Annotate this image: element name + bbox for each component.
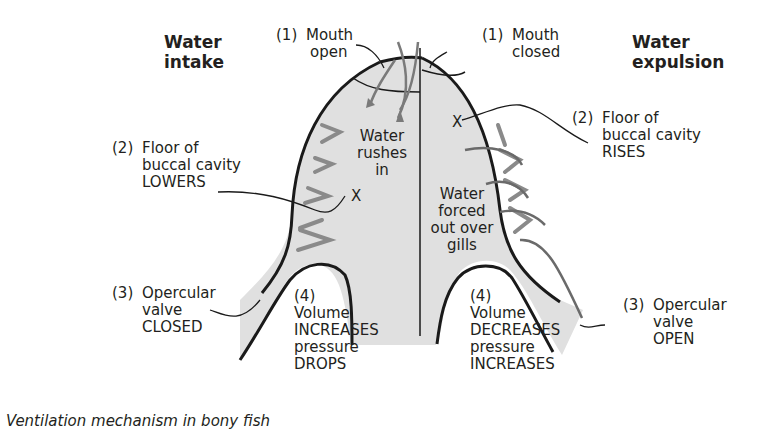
label-line: Floor of	[142, 140, 241, 157]
inner-text-water-forced-out: Water forced out over gills	[422, 186, 502, 254]
label-line: OPEN	[653, 331, 727, 348]
label-line: Mouth	[306, 27, 353, 44]
inner-line: rushes	[352, 145, 412, 162]
label-mouth-closed: (1)Mouthclosed	[482, 27, 560, 61]
label-mouth-open: (1)Mouthopen	[276, 27, 353, 61]
label-line: CLOSED	[142, 319, 216, 336]
heading-water-expulsion: Water expulsion	[632, 32, 724, 72]
label-line: buccal cavity	[142, 157, 241, 174]
label-line: open	[306, 44, 353, 61]
inner-line: in	[352, 162, 412, 179]
heading-line: intake	[164, 52, 224, 72]
label-line: Volume	[470, 305, 560, 322]
heading-line: expulsion	[632, 52, 724, 72]
label-volume-increases: (4) Volume INCREASES pressure DROPS	[294, 288, 379, 373]
marker-x-intake: X	[351, 188, 361, 205]
step-number: (1)	[482, 27, 512, 44]
step-number: (2)	[112, 140, 142, 157]
label-floor-rises: (2)Floor ofbuccal cavityRISES	[572, 110, 701, 161]
label-line: LOWERS	[142, 174, 241, 191]
inner-line: forced	[422, 203, 502, 220]
label-valve-closed: (3)OpercularvalveCLOSED	[112, 285, 216, 336]
label-line: RISES	[602, 144, 701, 161]
inner-line: Water	[352, 128, 412, 145]
figure-caption: Ventilation mechanism in bony fish	[6, 412, 270, 430]
gills-right	[498, 125, 530, 232]
heading-line: Water	[164, 32, 224, 52]
label-line: buccal cavity	[602, 127, 701, 144]
label-line: valve	[142, 302, 216, 319]
label-valve-open: (3)OpercularvalveOPEN	[623, 297, 727, 348]
inner-line: gills	[422, 237, 502, 254]
label-line: Opercular	[142, 285, 216, 302]
marker-x-expulsion: X	[452, 114, 462, 131]
heading-line: Water	[632, 32, 724, 52]
label-line: Volume	[294, 305, 379, 322]
step-number: (4)	[294, 288, 379, 305]
label-line: Floor of	[602, 110, 701, 127]
label-floor-lowers: (2)Floor ofbuccal cavityLOWERS	[112, 140, 241, 191]
step-number: (3)	[623, 297, 653, 314]
inner-text-water-rushes-in: Water rushes in	[352, 128, 412, 179]
label-line: INCREASES	[470, 356, 560, 373]
step-number: (4)	[470, 288, 560, 305]
label-line: INCREASES	[294, 322, 379, 339]
step-number: (1)	[276, 27, 306, 44]
label-line: closed	[512, 44, 560, 61]
step-number: (2)	[572, 110, 602, 127]
label-line: pressure	[294, 339, 379, 356]
label-line: pressure	[470, 339, 560, 356]
heading-water-intake: Water intake	[164, 32, 224, 72]
inner-line: out over	[422, 220, 502, 237]
label-line: DROPS	[294, 356, 379, 373]
inner-line: Water	[422, 186, 502, 203]
label-volume-decreases: (4) Volume DECREASES pressure INCREASES	[470, 288, 560, 373]
step-number: (3)	[112, 285, 142, 302]
label-line: Opercular	[653, 297, 727, 314]
label-line: Mouth	[512, 27, 560, 44]
label-line: valve	[653, 314, 727, 331]
label-line: DECREASES	[470, 322, 560, 339]
